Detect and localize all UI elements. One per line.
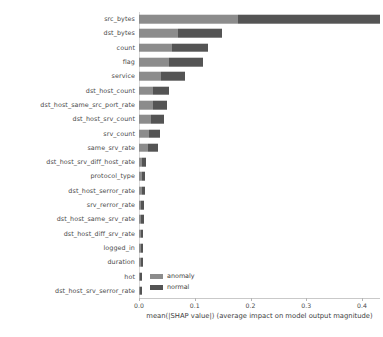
bar-row: duration [139,255,362,269]
bar-segment-normal [142,158,146,167]
x-tick [251,298,252,301]
stacked-bar[interactable] [139,72,185,81]
y-axis-label: protocol_type [90,172,135,180]
shap-summary-figure: src_bytesdst_bytescountflagservicedst_ho… [0,0,383,337]
legend-label-anomaly: anomaly [167,272,195,280]
bar-row: logged_in [139,241,362,255]
stacked-bar[interactable] [139,215,144,224]
stacked-bar[interactable] [139,186,145,195]
stacked-bar[interactable] [139,58,203,67]
bar-segment-normal [153,86,168,95]
bar-segment-normal [169,58,203,67]
bar-segment-normal [142,186,145,195]
bar-segment-anomaly [139,58,169,67]
legend-swatch-anomaly [150,274,163,279]
legend-item-normal[interactable]: normal [150,282,195,292]
x-tick [195,298,196,301]
stacked-bar[interactable] [139,258,143,267]
y-axis-label: dst_host_same_src_port_rate [40,101,135,109]
y-axis-label: dst_bytes [104,29,135,37]
y-axis-label: logged_in [103,244,135,252]
bar-row: srv_rerror_rate [139,198,362,212]
bar-segment-anomaly [139,129,149,138]
bar-segment-normal [141,244,143,253]
stacked-bar[interactable] [139,172,145,181]
stacked-bar[interactable] [139,29,222,38]
y-axis-label: dst_host_srv_serror_rate [55,287,135,295]
bar-segment-normal [238,15,380,24]
x-tick-label: 0.0 [134,302,144,309]
bar-segment-anomaly [139,43,172,52]
bar-row: srv_count [139,127,362,141]
stacked-bar[interactable] [139,129,160,138]
stacked-bar[interactable] [139,201,144,210]
x-axis-spine [139,298,380,299]
bar-row: dst_host_count [139,84,362,98]
x-tick [139,298,140,301]
stacked-bar[interactable] [139,15,380,24]
y-axis-label: dst_host_serror_rate [68,187,135,195]
y-axis-label: dst_host_same_srv_rate [57,215,135,223]
stacked-bar[interactable] [139,272,142,281]
x-tick-label: 0.2 [246,302,256,309]
bar-segment-anomaly [139,144,148,153]
bar-segment-normal [142,172,145,181]
y-axis-label: dst_host_srv_diff_host_rate [46,158,135,166]
y-axis-label: service [112,72,135,80]
bar-segment-normal [141,201,144,210]
stacked-bar[interactable] [139,86,169,95]
y-axis-label: srv_count [103,130,135,138]
legend-label-normal: normal [167,283,189,291]
x-tick-label: 0.3 [301,302,311,309]
stacked-bar[interactable] [139,287,142,296]
legend: anomaly normal [150,271,195,293]
bar-segment-normal [141,229,143,238]
bar-row: dst_host_same_src_port_rate [139,98,362,112]
stacked-bar[interactable] [139,43,208,52]
y-axis-label: hot [124,273,135,281]
bar-segment-anomaly [139,72,161,81]
bar-segment-normal [141,215,144,224]
bar-row: service [139,70,362,84]
bar-segment-anomaly [139,15,238,24]
stacked-bar[interactable] [139,115,164,124]
bar-segment-normal [140,272,142,281]
bar-row: dst_host_serror_rate [139,184,362,198]
y-axis-label: count [117,44,135,52]
bar-segment-anomaly [139,29,178,38]
y-axis-label: dst_host_diff_srv_rate [64,230,135,238]
bar-row: dst_host_srv_count [139,112,362,126]
bar-row: protocol_type [139,170,362,184]
bar-row: dst_host_same_srv_rate [139,213,362,227]
y-axis-label: same_srv_rate [87,144,135,152]
x-tick [306,298,307,301]
y-axis-label: flag [123,58,135,66]
plot-area: src_bytesdst_bytescountflagservicedst_ho… [139,12,362,298]
bar-segment-normal [148,144,158,153]
stacked-bar[interactable] [139,144,158,153]
bar-row: dst_bytes [139,27,362,41]
x-tick [362,298,363,301]
bar-segment-normal [149,129,160,138]
bar-segment-normal [178,29,221,38]
x-axis-title: mean(|SHAP value|) (average impact on mo… [139,312,380,320]
stacked-bar[interactable] [139,244,143,253]
bar-segment-anomaly [139,115,151,124]
legend-item-anomaly[interactable]: anomaly [150,271,195,281]
stacked-bar[interactable] [139,101,167,110]
bar-segment-normal [153,101,167,110]
bar-row: same_srv_rate [139,141,362,155]
bar-row: dst_host_srv_diff_host_rate [139,155,362,169]
bar-row: count [139,41,362,55]
bar-segment-normal [172,43,208,52]
bar-segment-normal [161,72,184,81]
stacked-bar[interactable] [139,229,143,238]
bar-row: flag [139,55,362,69]
bar-segment-anomaly [139,86,153,95]
stacked-bar[interactable] [139,158,146,167]
y-axis-label: dst_host_srv_count [73,115,135,123]
x-tick-label: 0.1 [190,302,200,309]
y-axis-label: srv_rerror_rate [87,201,135,209]
y-axis-label: dst_host_count [86,87,135,95]
legend-swatch-normal [150,285,163,290]
